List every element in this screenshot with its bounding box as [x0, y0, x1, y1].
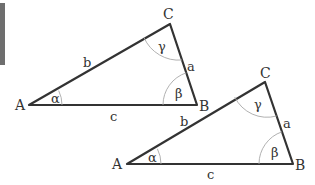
triangle-2-side-b-label: b	[180, 114, 188, 129]
triangle-2-angle-alpha-label: α	[148, 150, 157, 165]
triangle-1-side-c-label: c	[110, 109, 117, 124]
triangle-1: A B C a b c α β γ	[14, 6, 209, 124]
triangle-diagram: A B C a b c α β γ A B C a b c α β	[0, 0, 315, 185]
triangle-1-angle-beta-label: β	[175, 86, 183, 101]
triangle-1-vertex-b-label: B	[199, 98, 209, 114]
triangle-2-angle-alpha-arc	[157, 149, 161, 164]
triangles-canvas: A B C a b c α β γ A B C a b c α β	[0, 0, 315, 185]
triangle-2-vertex-a-label: A	[111, 156, 123, 172]
triangle-1-angle-gamma-label: γ	[158, 39, 166, 54]
triangle-1-side-a-label: a	[187, 59, 195, 74]
triangle-2-angle-beta-label: β	[271, 145, 279, 160]
triangle-2-vertex-b-label: B	[295, 157, 305, 173]
triangle-2-vertex-c-label: C	[260, 65, 271, 81]
triangle-1-vertex-a-label: A	[14, 97, 26, 113]
triangle-2-side-a-label: a	[283, 116, 291, 131]
triangle-2-angle-gamma-label: γ	[254, 97, 262, 112]
triangle-2-side-c-label: c	[207, 167, 214, 182]
triangle-1-angle-alpha-label: α	[51, 91, 60, 106]
triangle-2: A B C a b c α β γ	[111, 65, 305, 182]
triangle-1-side-b-label: b	[83, 55, 91, 70]
triangle-1-vertex-c-label: C	[163, 6, 174, 22]
